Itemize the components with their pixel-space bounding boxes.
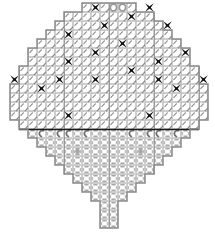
dash-stitch-symbol <box>107 141 108 144</box>
dash-stitch-symbol <box>146 141 147 144</box>
dash-stitch-symbol <box>101 150 102 153</box>
dash-stitch-symbol <box>120 184 125 186</box>
dash-stitch-symbol <box>119 195 120 198</box>
stitch-chart-root: Needlework Stitch Chart <box>0 0 215 237</box>
dash-stitch-symbol <box>98 177 99 180</box>
dash-stitch-symbol <box>66 145 71 147</box>
dash-stitch-symbol <box>119 177 120 180</box>
dash-stitch-symbol <box>107 177 108 180</box>
dash-stitch-symbol <box>143 168 144 171</box>
dash-stitch-symbol <box>83 168 84 171</box>
dash-stitch-symbol <box>111 193 116 195</box>
dash-stitch-symbol <box>75 172 80 174</box>
dash-stitch-symbol <box>84 190 89 192</box>
dash-stitch-symbol <box>138 181 143 183</box>
dash-stitch-symbol <box>93 139 98 141</box>
dash-stitch-symbol <box>146 150 147 153</box>
dash-stitch-symbol <box>101 159 102 162</box>
dash-stitch-symbol <box>107 204 108 207</box>
dash-stitch-symbol <box>147 139 152 141</box>
dash-stitch-symbol <box>137 132 138 135</box>
dash-stitch-symbol <box>75 181 80 183</box>
dash-stitch-symbol <box>107 186 108 189</box>
dash-stitch-symbol <box>80 132 81 135</box>
dash-stitch-symbol <box>57 145 62 147</box>
dash-stitch-symbol <box>101 204 102 207</box>
dash-stitch-symbol <box>83 159 84 162</box>
dash-stitch-symbol <box>93 163 98 165</box>
dash-stitch-symbol <box>80 150 81 153</box>
dash-stitch-symbol <box>84 181 89 183</box>
dash-stitch-symbol <box>161 141 162 144</box>
dash-stitch-symbol <box>120 136 125 138</box>
dash-stitch-symbol <box>48 136 53 138</box>
dash-stitch-symbol <box>89 186 90 189</box>
dash-stitch-symbol <box>129 163 134 165</box>
dash-stitch-symbol <box>147 157 152 159</box>
dash-stitch-symbol <box>44 141 45 144</box>
dash-stitch-symbol <box>111 211 116 213</box>
dash-stitch-symbol <box>116 150 117 153</box>
dash-stitch-symbol <box>57 154 62 156</box>
dash-stitch-symbol <box>164 141 165 144</box>
dash-stitch-symbol <box>84 154 89 156</box>
dash-stitch-symbol <box>138 163 143 165</box>
dash-stitch-symbol <box>92 141 93 144</box>
dash-stitch-symbol <box>98 195 99 198</box>
dash-stitch-symbol <box>75 163 80 165</box>
dash-stitch-symbol <box>48 154 53 156</box>
dash-stitch-symbol <box>173 141 174 144</box>
dot-stitch-symbol <box>75 149 80 154</box>
dash-stitch-symbol <box>179 141 180 144</box>
dash-stitch-symbol <box>62 159 63 162</box>
dash-stitch-symbol <box>152 159 153 162</box>
dash-stitch-symbol <box>120 166 125 168</box>
dash-stitch-symbol <box>161 159 162 162</box>
dash-stitch-symbol <box>48 148 53 150</box>
dash-stitch-symbol <box>48 139 53 141</box>
dash-stitch-symbol <box>53 132 54 135</box>
dash-stitch-symbol <box>93 181 98 183</box>
dash-stitch-symbol <box>107 132 108 135</box>
dash-stitch-symbol <box>120 190 125 192</box>
dash-stitch-symbol <box>48 145 53 147</box>
dash-stitch-symbol <box>143 159 144 162</box>
dash-stitch-symbol <box>102 136 107 138</box>
dash-stitch-symbol <box>129 172 134 174</box>
dash-stitch-symbol <box>56 159 57 162</box>
dash-stitch-symbol <box>56 141 57 144</box>
dash-stitch-symbol <box>92 177 93 180</box>
dash-stitch-symbol <box>116 177 117 180</box>
dash-stitch-symbol <box>93 193 98 195</box>
dash-stitch-symbol <box>92 150 93 153</box>
dash-stitch-symbol <box>39 139 44 141</box>
dash-stitch-symbol <box>53 141 54 144</box>
dash-stitch-symbol <box>174 145 179 147</box>
dash-stitch-symbol <box>93 175 98 177</box>
dash-stitch-symbol <box>66 166 71 168</box>
dash-stitch-symbol <box>134 177 135 180</box>
dash-stitch-symbol <box>101 132 102 135</box>
dash-stitch-symbol <box>119 141 120 144</box>
dash-stitch-symbol <box>188 132 189 135</box>
dash-stitch-symbol <box>74 168 75 171</box>
dash-stitch-symbol <box>125 186 126 189</box>
dash-stitch-symbol <box>143 132 144 135</box>
dash-stitch-symbol <box>30 136 35 138</box>
dash-stitch-symbol <box>93 166 98 168</box>
dash-stitch-symbol <box>138 136 143 138</box>
dash-stitch-symbol <box>74 177 75 180</box>
dash-stitch-symbol <box>74 150 75 153</box>
dash-stitch-symbol <box>111 166 116 168</box>
dash-stitch-symbol <box>147 145 152 147</box>
dash-stitch-symbol <box>80 159 81 162</box>
dash-stitch-symbol <box>102 226 107 228</box>
dash-stitch-symbol <box>146 159 147 162</box>
dash-stitch-symbol <box>57 139 62 141</box>
dash-stitch-symbol <box>111 190 116 192</box>
dash-stitch-symbol <box>147 154 152 156</box>
dash-stitch-symbol <box>111 136 116 138</box>
dash-stitch-symbol <box>120 163 125 165</box>
dash-stitch-symbol <box>101 168 102 171</box>
dash-stitch-symbol <box>53 150 54 153</box>
